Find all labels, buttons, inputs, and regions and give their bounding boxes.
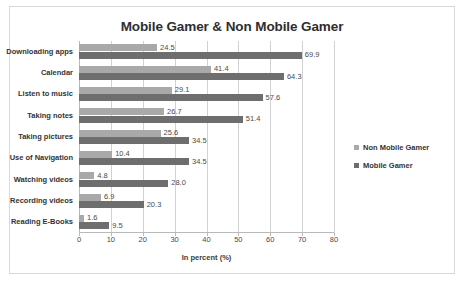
legend-label: Non Mobile Gamer	[363, 143, 429, 152]
bar	[79, 137, 189, 144]
category-label: Taking notes	[0, 111, 73, 120]
bar-value-label: 20.3	[147, 200, 162, 209]
x-axis-title: In percent (%)	[79, 253, 334, 262]
category-label: Calendar	[0, 68, 73, 77]
bar-value-label: 1.6	[87, 213, 97, 222]
x-axis-tick-label: 40	[202, 235, 210, 244]
bar	[79, 87, 172, 94]
category-label: Watching videos	[0, 175, 73, 184]
bar-value-label: 26.7	[167, 107, 182, 116]
bar-value-label: 24.5	[160, 43, 175, 52]
x-axis-tick-label: 10	[107, 235, 115, 244]
x-axis-tick-label: 50	[234, 235, 242, 244]
bar-value-label: 69.9	[305, 50, 320, 59]
category-group: Recording videos6.920.3	[79, 190, 334, 211]
bar-value-label: 6.9	[104, 192, 114, 201]
category-group: Taking pictures25.634.5	[79, 126, 334, 147]
x-axis-tick-label: 0	[77, 235, 81, 244]
category-label: Use of Navigation	[0, 153, 73, 162]
x-axis-tick-label: 20	[139, 235, 147, 244]
bar	[79, 151, 112, 158]
bar	[79, 116, 243, 123]
plot-area: Downloading apps24.569.9Calendar41.464.3…	[79, 41, 334, 233]
category-group: Watching videos4.828.0	[79, 169, 334, 190]
legend-swatch-icon	[354, 163, 359, 168]
x-axis-tick-label: 80	[330, 235, 338, 244]
bar-value-label: 57.6	[266, 93, 281, 102]
bar-value-label: 41.4	[214, 64, 229, 73]
category-group: Reading E-Books1.69.5	[79, 212, 334, 233]
legend-item-non-mobile-gamer[interactable]: Non Mobile Gamer	[354, 143, 429, 152]
x-axis-tick-label: 30	[170, 235, 178, 244]
bar-value-label: 25.6	[164, 128, 179, 137]
chart-container: Mobile Gamer & Non Mobile Gamer Download…	[9, 6, 455, 274]
legend-swatch-icon	[354, 145, 359, 150]
x-axis-tick-label: 70	[298, 235, 306, 244]
category-group: Taking notes26.751.4	[79, 105, 334, 126]
category-label: Recording videos	[0, 196, 73, 205]
bar-value-label: 34.5	[192, 136, 207, 145]
bar	[79, 52, 302, 59]
bar	[79, 172, 94, 179]
bar	[79, 130, 161, 137]
bar-value-label: 9.5	[112, 221, 122, 230]
category-group: Use of Navigation10.434.5	[79, 148, 334, 169]
bar-value-label: 29.1	[175, 85, 190, 94]
bar	[79, 108, 164, 115]
bar	[79, 44, 157, 51]
bar-value-label: 10.4	[115, 149, 130, 158]
bar-value-label: 34.5	[192, 157, 207, 166]
bar-value-label: 51.4	[246, 114, 261, 123]
legend-item-mobile-gamer[interactable]: Mobile Gamer	[354, 161, 429, 170]
bar	[79, 94, 263, 101]
category-label: Downloading apps	[0, 47, 73, 56]
category-group: Listen to music29.157.6	[79, 84, 334, 105]
legend-label: Mobile Gamer	[363, 161, 413, 170]
category-label: Taking pictures	[0, 132, 73, 141]
bar	[79, 73, 284, 80]
category-group: Downloading apps24.569.9	[79, 41, 334, 62]
bar-value-label: 4.8	[97, 171, 107, 180]
bar	[79, 201, 144, 208]
bar-value-label: 28.0	[171, 178, 186, 187]
chart-title: Mobile Gamer & Non Mobile Gamer	[10, 19, 454, 34]
bar-value-label: 64.3	[287, 72, 302, 81]
category-label: Listen to music	[0, 89, 73, 98]
bar	[79, 158, 189, 165]
chart-legend: Non Mobile Gamer Mobile Gamer	[354, 143, 429, 179]
x-axis-tick-label: 60	[266, 235, 274, 244]
bar	[79, 222, 109, 229]
bar	[79, 194, 101, 201]
gridline	[334, 41, 335, 233]
bar	[79, 215, 84, 222]
category-label: Reading E-Books	[0, 217, 73, 226]
bar	[79, 180, 168, 187]
category-group: Calendar41.464.3	[79, 62, 334, 83]
bar	[79, 66, 211, 73]
